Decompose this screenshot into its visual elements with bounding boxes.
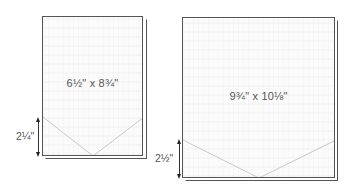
arrow-down-icon <box>177 174 181 179</box>
arrow-down-icon <box>36 152 40 157</box>
dimension-line <box>179 143 180 175</box>
large-folder-front: 9¾" x 10⅛" <box>182 17 335 178</box>
large-folder-size-label: 9¾" x 10⅛" <box>183 90 334 102</box>
small-pocket-height-label: 2¼" <box>16 130 34 142</box>
small-folder-front: 6½" x 8¾" <box>42 16 143 156</box>
small-folder-size-label: 6½" x 8¾" <box>43 77 142 89</box>
dimension-line <box>38 121 39 153</box>
large-pocket-height-label: 2½" <box>155 152 173 164</box>
